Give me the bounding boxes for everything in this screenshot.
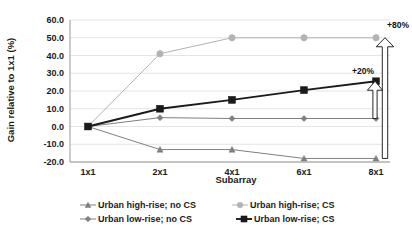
y-tick-label: 10.0	[46, 104, 64, 114]
x-tick-label: 2x1	[152, 167, 167, 177]
data-point-marker	[157, 51, 163, 57]
y-tick-label: 30.0	[46, 68, 64, 78]
legend-item-label: Urban high-rise; no CS	[98, 200, 196, 210]
data-point-marker	[301, 87, 308, 94]
data-point-marker	[229, 96, 236, 103]
data-point-marker	[301, 35, 307, 41]
y-tick-label: -10.0	[43, 139, 64, 149]
x-tick-label: 8x1	[368, 167, 383, 177]
chart-svg: 60.050.040.030.020.010.00.0-10.0-20.0 1x…	[0, 0, 412, 240]
x-tick-label: 6x1	[296, 167, 311, 177]
x-tick-label: 1x1	[80, 167, 95, 177]
data-point-marker	[229, 35, 235, 41]
legend-item-label: Urban low-rise; no CS	[98, 214, 192, 224]
legend-item-label: Urban low-rise; CS	[254, 214, 335, 224]
y-tick-label: 60.0	[46, 15, 64, 25]
data-point-marker	[237, 202, 243, 208]
data-point-marker	[241, 216, 247, 222]
x-axis-title: Subarray	[215, 174, 257, 185]
annotation-arrow-80-label: +80%	[387, 20, 409, 30]
data-point-marker	[157, 105, 164, 112]
y-tick-label: 0.0	[51, 122, 64, 132]
data-point-marker	[373, 35, 379, 41]
chart-container: 60.050.040.030.020.010.00.0-10.0-20.0 1x…	[0, 0, 412, 240]
y-tick-label: 50.0	[46, 33, 64, 43]
y-tick-label: -20.0	[43, 157, 64, 167]
legend-item-label: Urban high-rise; CS	[250, 200, 335, 210]
annotation-arrow-20-label: +20%	[352, 66, 374, 76]
data-point-marker	[85, 123, 92, 130]
y-axis-tick-labels: 60.050.040.030.020.010.00.0-10.0-20.0	[43, 15, 64, 167]
y-tick-label: 20.0	[46, 86, 64, 96]
y-axis-title: Gain relative to 1x1 (%)	[5, 38, 16, 143]
legend-item[interactable]: Urban high-rise; no CS	[80, 200, 196, 210]
y-tick-label: 40.0	[46, 51, 64, 61]
